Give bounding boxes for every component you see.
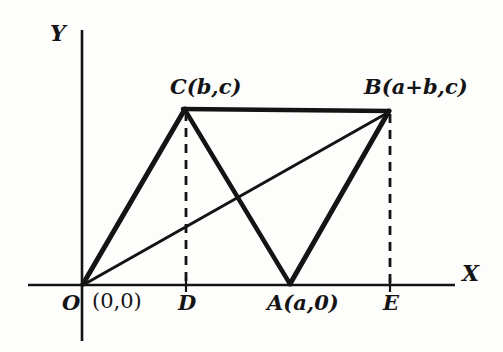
geometry-figure: Y X C(b,c) B(a+b,c) O (0,0) D A(a,0) E [0,0,503,352]
vertex-label-b: B(a+b,c) [364,76,468,97]
origin-label: O [62,292,80,313]
point-label-d: D [178,292,196,313]
origin-coordinate-label: (0,0) [92,291,142,312]
y-axis-label: Y [50,22,66,44]
vertex-label-c: C(b,c) [170,76,241,97]
point-label-e: E [383,292,399,313]
side-ab-line [290,111,389,284]
diagonal-ca-line [185,110,290,284]
x-axis-label: X [462,262,479,284]
point-label-a: A(a,0) [267,292,339,313]
side-cb-line [183,109,389,111]
